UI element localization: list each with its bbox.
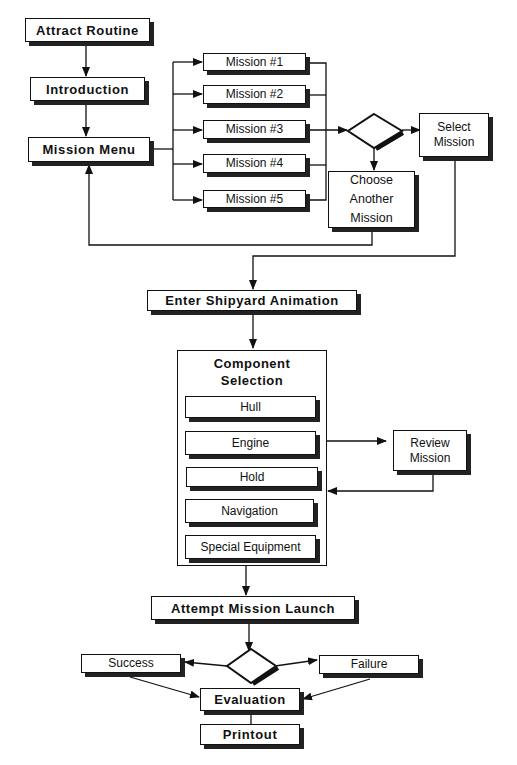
success-box: Success [81,654,181,673]
engine-box: Engine [185,431,316,455]
attract-routine-box: Attract Routine [25,18,150,42]
mission-2-box: Mission #2 [203,85,306,104]
mission-5-box: Mission #5 [203,190,306,208]
review-mission-box: Review Mission [393,430,467,471]
special-equipment-box: Special Equipment [185,535,316,559]
decision-diamond-launch [227,649,278,684]
choose-another-mission-box: Choose Another Mission [328,171,415,228]
hold-box: Hold [186,467,318,487]
component-selection-panel: Component Selection [177,350,327,566]
decision-diamond-mission [348,114,403,150]
evaluation-box: Evaluation [200,688,300,711]
navigation-box: Navigation [185,499,314,523]
component-selection-title: Component Selection [178,355,326,389]
mission-1-box: Mission #1 [203,53,306,71]
introduction-box: Introduction [30,77,145,101]
enter-shipyard-box: Enter Shipyard Animation [147,290,357,311]
select-mission-box: Select Mission [419,113,489,157]
hull-box: Hull [185,396,316,418]
mission-4-box: Mission #4 [203,154,306,173]
mission-3-box: Mission #3 [203,120,306,139]
mission-menu-box: Mission Menu [28,137,150,162]
failure-box: Failure [319,655,419,674]
attempt-launch-box: Attempt Mission Launch [151,596,355,620]
printout-box: Printout [200,724,300,745]
